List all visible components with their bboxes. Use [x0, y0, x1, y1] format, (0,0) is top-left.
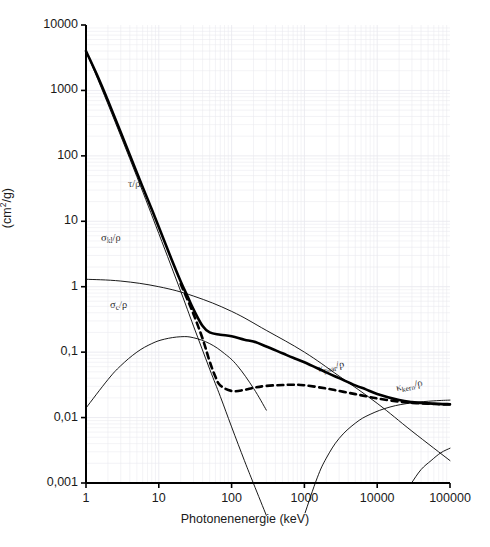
plot-svg — [86, 25, 450, 483]
y-tick-label: 0,01 — [20, 410, 78, 424]
y-tick-label: 1 — [20, 279, 78, 293]
axis-frame — [86, 25, 450, 483]
curve — [86, 51, 266, 515]
axis-ticks — [81, 25, 450, 488]
curve — [412, 448, 450, 482]
y-axis-label-prefix: (cm — [0, 207, 14, 228]
y-tick-label: 100 — [20, 148, 78, 162]
x-tick-label: 1 — [46, 491, 126, 505]
x-tick-label: 100000 — [410, 491, 490, 505]
grid-lines — [86, 25, 450, 483]
curve — [86, 337, 266, 411]
x-tick-label: 10000 — [337, 491, 417, 505]
data-curves — [86, 51, 450, 515]
x-axis-label: Photonenenergie (keV) — [0, 512, 490, 526]
y-tick-label: 0,001 — [20, 475, 78, 489]
y-axis-label-suffix: /g) — [0, 188, 14, 203]
y-tick-label: 10000 — [20, 17, 78, 31]
x-tick-label: 1000 — [264, 491, 344, 505]
y-tick-label: 0,1 — [20, 344, 78, 358]
y-axis-label: (cm2/g) — [0, 138, 14, 278]
x-tick-label: 10 — [119, 491, 199, 505]
y-tick-label: 10 — [20, 213, 78, 227]
y-axis-label-exponent: 2 — [0, 203, 8, 208]
figure-photon-attenuation: (cm2/g) Photonenenergie (keV) 1000010001… — [0, 0, 490, 547]
plot-area — [86, 25, 450, 483]
y-tick-label: 1000 — [20, 82, 78, 96]
